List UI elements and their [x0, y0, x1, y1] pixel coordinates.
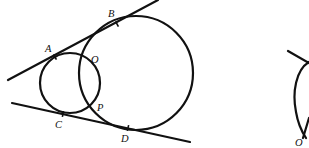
right-label-o: O — [295, 137, 303, 148]
geometry-diagram: A B O P C D O — [0, 0, 309, 148]
label-b: B — [108, 8, 115, 19]
label-p: P — [96, 102, 104, 113]
label-a: A — [44, 43, 52, 54]
label-d: D — [120, 133, 129, 144]
figure-right-partial: O — [288, 51, 309, 148]
right-figure-line — [288, 51, 309, 63]
label-c: C — [55, 119, 63, 130]
upper-tangent-line — [8, 0, 158, 80]
label-o: O — [91, 54, 99, 65]
figure-left: A B O P C D — [8, 0, 193, 144]
right-figure-chord — [303, 118, 309, 138]
